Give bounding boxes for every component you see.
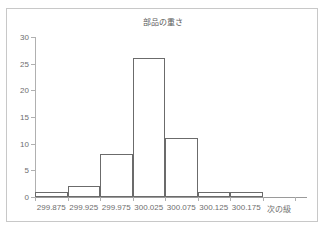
x-axis-label: 次の級 [267, 203, 291, 214]
x-axis-label: 300.175 [232, 203, 261, 212]
x-axis-label: 300.025 [134, 203, 163, 212]
histogram-bar[interactable] [35, 192, 68, 197]
histogram-bar[interactable] [68, 186, 101, 197]
y-axis-tick [31, 90, 35, 91]
chart-title: 部品の重さ [7, 16, 319, 27]
histogram-bar[interactable] [133, 58, 166, 197]
y-axis-tick [31, 64, 35, 65]
histogram-bar[interactable] [165, 138, 198, 197]
y-axis-tick [31, 144, 35, 145]
y-axis-tick [31, 117, 35, 118]
plot-area: 051015202530299.875299.925299.975300.025… [35, 37, 295, 197]
x-axis-tick [198, 197, 199, 201]
x-axis-tick [165, 197, 166, 201]
x-axis-label: 299.925 [69, 203, 98, 212]
histogram-bar[interactable] [198, 192, 231, 197]
x-axis-tick [133, 197, 134, 201]
histogram-bar[interactable] [100, 154, 133, 197]
y-axis-label: 20 [20, 86, 29, 95]
y-axis-label: 30 [20, 33, 29, 42]
y-axis-tick [31, 37, 35, 38]
x-axis-tick [35, 197, 36, 201]
x-axis-tick-end [295, 197, 296, 201]
y-axis-label: 5 [25, 166, 29, 175]
y-axis-label: 0 [25, 193, 29, 202]
y-axis-tick [31, 170, 35, 171]
chart-frame: 部品の重さ 051015202530299.875299.925299.9753… [6, 8, 318, 222]
x-axis-label: 299.975 [102, 203, 131, 212]
y-axis-label: 25 [20, 59, 29, 68]
x-axis-tick [263, 197, 264, 201]
x-axis-label: 300.075 [167, 203, 196, 212]
histogram-bar[interactable] [230, 192, 263, 197]
x-axis-tick [230, 197, 231, 201]
x-axis-line [35, 197, 307, 198]
y-axis-label: 10 [20, 139, 29, 148]
x-axis-tick [100, 197, 101, 201]
x-axis-tick [68, 197, 69, 201]
x-axis-label: 299.875 [37, 203, 66, 212]
y-axis-label: 15 [20, 113, 29, 122]
x-axis-label: 300.125 [199, 203, 228, 212]
